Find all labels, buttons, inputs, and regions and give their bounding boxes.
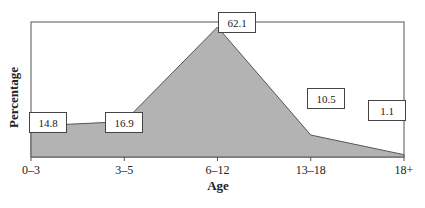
x-axis-label: Age	[207, 178, 229, 194]
x-axis-ticks	[31, 157, 404, 161]
data-label-box: 14.8	[29, 112, 67, 133]
x-tick-label: 6–12	[206, 163, 230, 178]
data-label-box: 1.1	[368, 100, 406, 121]
x-tick-label: 13–18	[296, 163, 326, 178]
x-tick-label: 3–5	[115, 163, 133, 178]
x-tick-label: 18+	[395, 163, 414, 178]
data-label-box: 62.1	[218, 12, 256, 33]
area-series	[31, 27, 404, 157]
x-tick-label: 0–3	[22, 163, 40, 178]
data-label-box: 10.5	[307, 88, 345, 109]
y-axis-label: Percentage	[6, 68, 22, 128]
data-label-box: 16.9	[105, 112, 143, 133]
